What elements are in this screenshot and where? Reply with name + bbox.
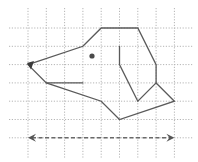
dog-eye-dot: [89, 53, 94, 58]
dog-grid-diagram: [0, 0, 198, 162]
arrow-right-head-icon: [166, 134, 174, 142]
dotted-grid: [9, 8, 193, 158]
